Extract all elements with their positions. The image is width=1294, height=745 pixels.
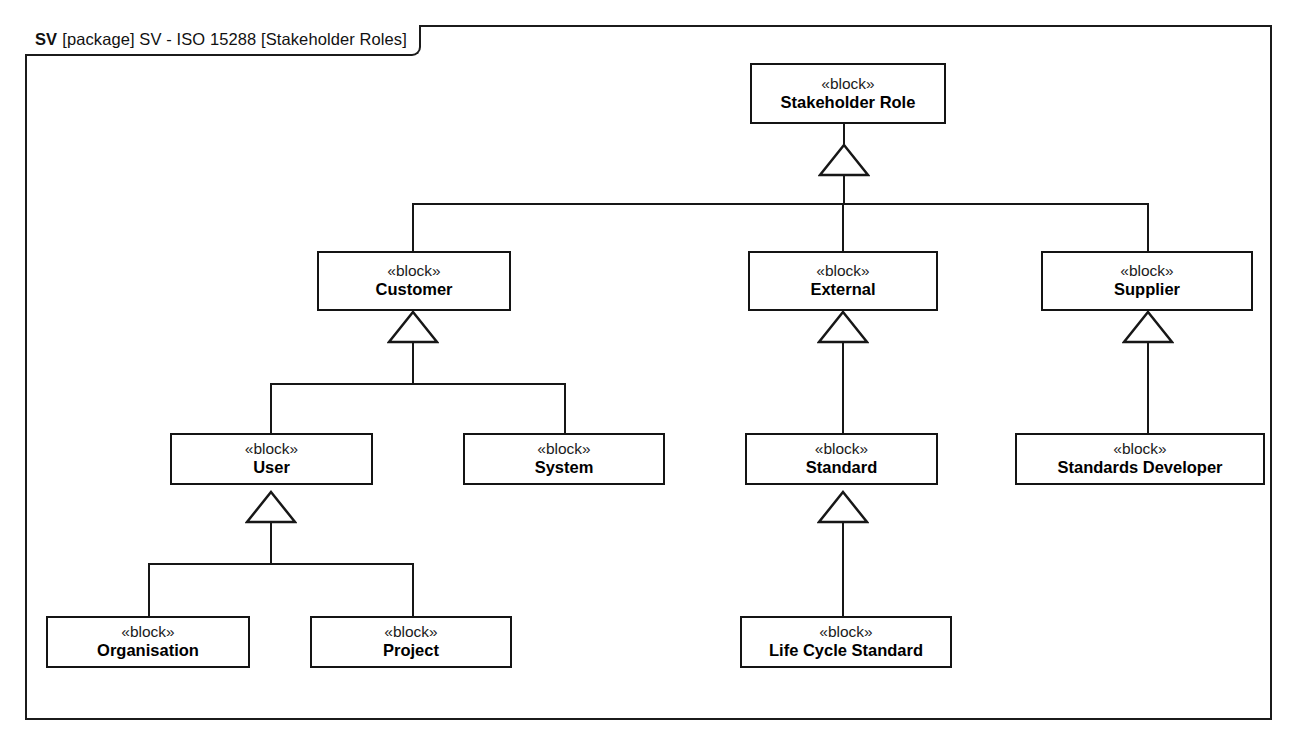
- generalization-arrow-to-stakeholder-role: [818, 143, 870, 177]
- block-name-project: Project: [383, 642, 439, 659]
- block-name-system: System: [535, 459, 594, 476]
- connector-bus-stakeholder-role: [413, 203, 1149, 205]
- connector-user-drop: [270, 522, 272, 564]
- generalization-arrow-to-supplier: [1122, 310, 1174, 344]
- block-stereotype: «block»: [121, 624, 174, 640]
- block-name-standards-developer: Standards Developer: [1057, 459, 1222, 476]
- block-stereotype: «block»: [387, 263, 440, 279]
- generalization-arrow-to-standard: [817, 490, 869, 524]
- connector-drop-supplier: [1147, 203, 1149, 251]
- block-system[interactable]: «block» System: [463, 433, 665, 485]
- connector-stakeholder-role-stem: [843, 124, 845, 144]
- block-name-organisation: Organisation: [97, 642, 199, 659]
- block-organisation[interactable]: «block» Organisation: [46, 616, 250, 668]
- block-name-standard: Standard: [806, 459, 878, 476]
- connector-external-to-standard: [842, 342, 844, 435]
- connector-bus-customer: [270, 383, 566, 385]
- connector-customer-drop: [412, 342, 414, 384]
- connector-drop-organisation: [148, 563, 150, 617]
- block-standard[interactable]: «block» Standard: [745, 433, 938, 485]
- package-name: SV: [35, 30, 57, 49]
- connector-supplier-to-standards-developer: [1147, 342, 1149, 435]
- block-standards-developer[interactable]: «block» Standards Developer: [1015, 433, 1265, 485]
- connector-standard-to-life-cycle-standard: [842, 522, 844, 617]
- connector-bus-user: [148, 563, 414, 565]
- connector-drop-system: [564, 383, 566, 435]
- block-supplier[interactable]: «block» Supplier: [1041, 251, 1253, 311]
- block-project[interactable]: «block» Project: [310, 616, 512, 668]
- connector-drop-user: [270, 383, 272, 435]
- block-stereotype: «block»: [245, 441, 298, 457]
- connector-stakeholder-role-drop: [843, 175, 845, 205]
- block-customer[interactable]: «block» Customer: [317, 251, 511, 311]
- block-stereotype: «block»: [1113, 441, 1166, 457]
- connector-drop-external: [842, 203, 844, 251]
- connector-drop-customer: [412, 203, 414, 251]
- diagram-canvas: SV [package] SV - ISO 15288 [Stakeholder…: [0, 0, 1294, 745]
- block-stereotype: «block»: [819, 624, 872, 640]
- block-name-customer: Customer: [375, 281, 452, 298]
- generalization-arrow-to-customer: [387, 310, 439, 344]
- block-stereotype: «block»: [537, 441, 590, 457]
- block-stakeholder-role[interactable]: «block» Stakeholder Role: [750, 63, 946, 124]
- block-name-supplier: Supplier: [1114, 281, 1180, 298]
- package-label-text: [package] SV - ISO 15288 [Stakeholder Ro…: [62, 30, 407, 49]
- block-name-stakeholder-role: Stakeholder Role: [781, 94, 916, 111]
- block-life-cycle-standard[interactable]: «block» Life Cycle Standard: [740, 616, 952, 668]
- package-frame-label: SV [package] SV - ISO 15288 [Stakeholder…: [25, 25, 421, 56]
- block-stereotype: «block»: [815, 441, 868, 457]
- block-stereotype: «block»: [821, 76, 874, 92]
- generalization-arrow-to-user: [245, 490, 297, 524]
- block-name-life-cycle-standard: Life Cycle Standard: [769, 642, 923, 659]
- block-stereotype: «block»: [384, 624, 437, 640]
- block-name-user: User: [253, 459, 290, 476]
- generalization-arrow-to-external: [817, 310, 869, 344]
- block-name-external: External: [810, 281, 875, 298]
- block-user[interactable]: «block» User: [170, 433, 373, 485]
- block-stereotype: «block»: [816, 263, 869, 279]
- block-external[interactable]: «block» External: [748, 251, 938, 311]
- block-stereotype: «block»: [1120, 263, 1173, 279]
- connector-drop-project: [412, 563, 414, 617]
